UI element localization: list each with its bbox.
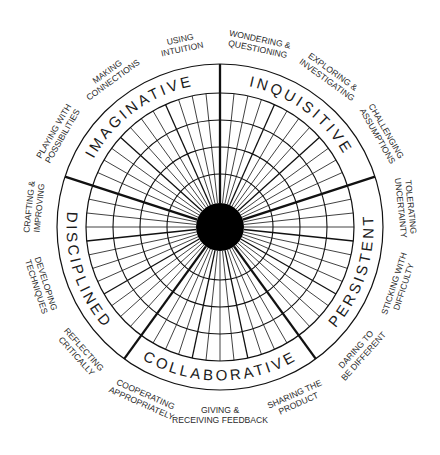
spoke — [242, 172, 342, 217]
habit-label: DARING TOBE DIFFERENT — [332, 322, 389, 382]
habit-label: CHALLENGINGASSUMPTIONS — [358, 101, 407, 165]
habit-label: EXPLORING &INVESTIGATING — [297, 48, 362, 103]
habit-label: WONDERING &QUESTIONING — [226, 28, 292, 61]
spoke — [239, 148, 328, 213]
spoke — [165, 249, 210, 349]
habit-label: TOLERATINGUNCERTAINTY — [393, 176, 419, 238]
habit-label: GIVING &RECEIVING FEEDBACK — [172, 405, 268, 425]
center-hub — [196, 203, 244, 251]
habit-divider — [165, 105, 210, 205]
habit-label: STICKING WITHDIFFICULTY — [379, 251, 418, 319]
habit-label: CRAFTING &IMPROVING — [21, 180, 46, 234]
creative-habits-wheel: IMAGINATIVEINQUISITIVEPERSISTENTCOLLABOR… — [0, 0, 440, 455]
sector-divider — [65, 177, 197, 220]
spoke — [141, 119, 206, 208]
habit-label-line: GIVING & — [201, 405, 239, 415]
dimension-label-disciplined: DISCIPLINED — [63, 211, 116, 331]
habit-label: MAKINGCONNECTIONS — [79, 49, 142, 103]
wheel-graphic: IMAGINATIVEINQUISITIVEPERSISTENTCOLLABOR… — [0, 0, 440, 455]
habit-label-line: RECEIVING FEEDBACK — [172, 415, 268, 425]
habit-label: SHARING THEPRODUCT — [266, 378, 328, 420]
sector-divider — [243, 177, 375, 220]
habit-label: PLAYING WITHPOSSIBILITIES — [34, 102, 82, 165]
spoke — [234, 119, 299, 208]
spoke — [98, 237, 198, 282]
spoke — [98, 172, 198, 217]
wheel-grid — [57, 64, 383, 390]
habit-label: DEVELOPINGTECHNIQUES — [23, 255, 60, 315]
habit-label: REFLECTINGCRITICALLY — [55, 326, 106, 380]
habit-divider — [230, 105, 275, 205]
spoke — [242, 237, 342, 282]
spoke — [112, 148, 201, 213]
habit-label: USINGINTUITION — [158, 30, 204, 58]
dimension-label-persistent: PERSISTENT — [325, 213, 377, 330]
spoke — [230, 249, 275, 349]
